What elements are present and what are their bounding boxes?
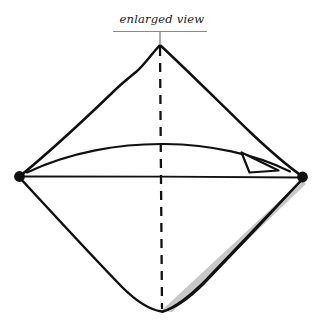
left-vertex-dot [14, 171, 25, 182]
arrowhead-icon [242, 153, 279, 173]
diagram-canvas: enlarged view [0, 0, 322, 333]
edge-top-left [20, 46, 160, 177]
vertical-dashed-centerline [160, 47, 162, 309]
right-vertex-dot [297, 172, 308, 183]
enlarged-view-diagram [0, 0, 322, 333]
edge-top-right [161, 46, 303, 177]
horizontal-chord [20, 176, 302, 177]
enlarged-view-label: enlarged view [112, 13, 212, 26]
edge-bottom-left [20, 178, 162, 312]
